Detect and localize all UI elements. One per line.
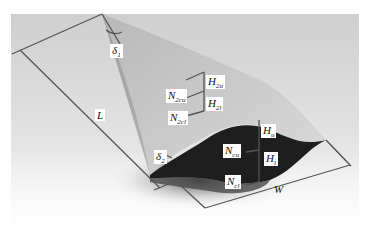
label-Ncu: Ncu xyxy=(223,144,241,158)
label-N2cu: N2cu xyxy=(166,89,187,103)
membrane-diagram: δ1 L δ2 N2cu N2cl H2u H2l Hu Ncu Hl Ncl … xyxy=(0,0,368,230)
label-H2u: H2u xyxy=(206,75,225,89)
label-Hu: Hu xyxy=(261,124,276,138)
label-Ncl: Ncl xyxy=(225,175,241,189)
label-N2cl: N2cl xyxy=(168,111,188,125)
label-Hl: Hl xyxy=(264,152,278,166)
label-H2l: H2l xyxy=(206,97,223,111)
label-delta1: δ1 xyxy=(110,44,123,58)
label-L: L xyxy=(95,109,105,121)
label-delta2: δ2 xyxy=(154,150,167,164)
label-W: W xyxy=(272,183,285,195)
